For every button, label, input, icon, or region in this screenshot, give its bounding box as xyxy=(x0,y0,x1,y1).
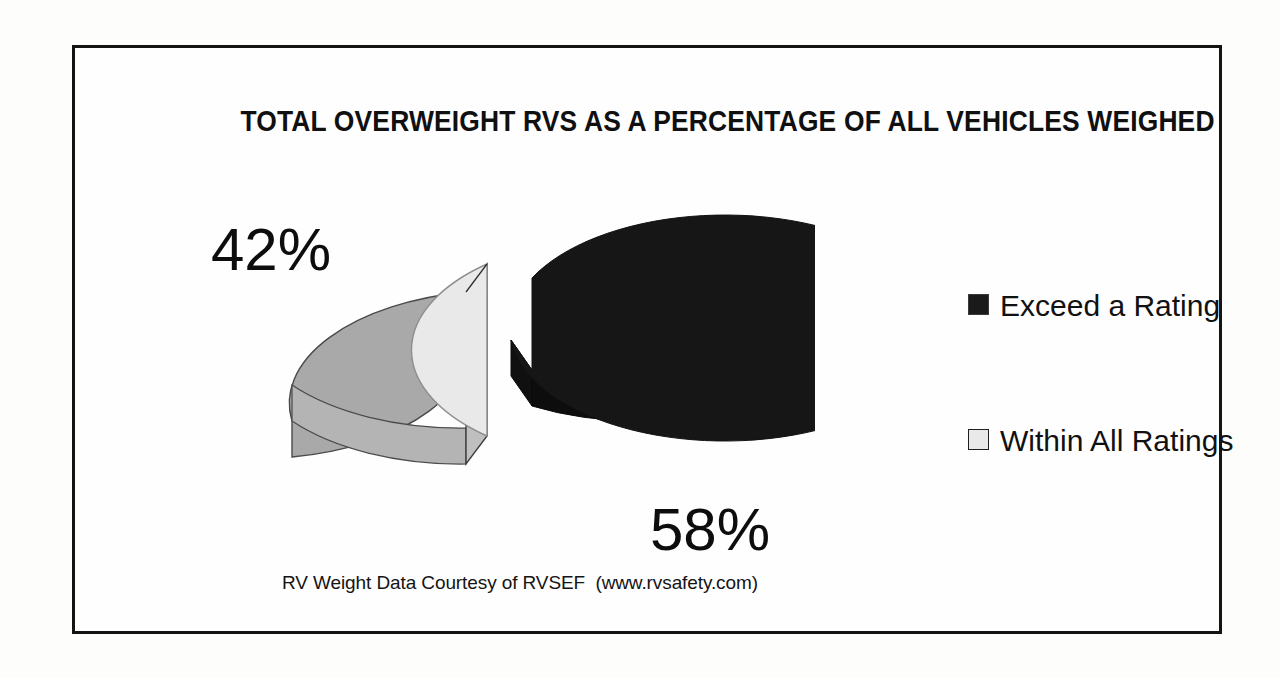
legend-label-within-all-ratings: Within All Ratings xyxy=(1000,421,1233,460)
pie-slice-within-all-ratings[interactable] xyxy=(289,264,487,464)
chart-frame: TOTAL OVERWEIGHT RVS AS A PERCENTAGE OF … xyxy=(72,45,1222,634)
light-square-icon xyxy=(968,429,989,450)
chart-legend: Exceed a Rating Within All Ratings xyxy=(968,286,1268,460)
data-label-within-all-ratings: 42% xyxy=(211,220,331,280)
dark-square-icon xyxy=(968,294,989,315)
scanned-page: TOTAL OVERWEIGHT RVS AS A PERCENTAGE OF … xyxy=(0,0,1280,678)
data-label-exceed-a-rating: 58% xyxy=(650,500,770,560)
chart-caption: RV Weight Data Courtesy of RVSEF (www.rv… xyxy=(282,572,758,594)
pie-slice-exceed-a-rating[interactable] xyxy=(511,215,815,441)
legend-item-exceed-a-rating[interactable]: Exceed a Rating xyxy=(968,286,1268,325)
legend-label-exceed-a-rating: Exceed a Rating xyxy=(1000,286,1220,325)
chart-title: TOTAL OVERWEIGHT RVS AS A PERCENTAGE OF … xyxy=(240,104,1023,137)
legend-item-within-all-ratings[interactable]: Within All Ratings xyxy=(968,421,1268,460)
